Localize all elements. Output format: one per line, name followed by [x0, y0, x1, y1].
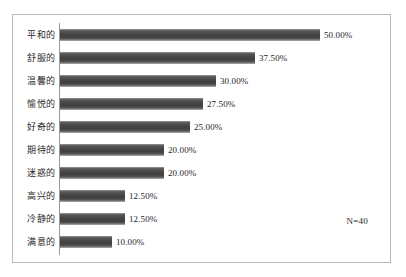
bar-value-label: 25.00% [194, 122, 222, 132]
bar-rect [60, 75, 216, 86]
bar-row: 好奇的 25.00% [13, 115, 390, 138]
bar-value-label: 30.00% [220, 76, 248, 86]
bar-value-label: 20.00% [168, 145, 196, 155]
bar-category-label: 满意的 [13, 237, 55, 246]
bar-rect [60, 121, 190, 132]
bar-row: 愉悦的 27.50% [13, 92, 390, 115]
bar-rect [60, 236, 112, 247]
bar-value-label: 20.00% [168, 168, 196, 178]
bar-category-label: 好奇的 [13, 122, 55, 131]
bar-value-label: 12.50% [129, 214, 157, 224]
bar-category-label: 期待的 [13, 145, 55, 154]
bar-category-label: 舒服的 [13, 53, 55, 62]
bar-category-label: 高兴的 [13, 191, 55, 200]
bar-rect [60, 29, 320, 40]
bar-row: 满意的 10.00% [13, 230, 390, 253]
bar-category-label: 愉悦的 [13, 99, 55, 108]
plot-area: 平和的 50.00% 舒服的 37.50% 温馨的 30.00% 愉悦的 [13, 15, 390, 262]
bar-category-label: 温馨的 [13, 76, 55, 85]
bar-rect [60, 167, 164, 178]
bar-value-label: 50.00% [324, 30, 352, 40]
bar-value-label: 12.50% [129, 191, 157, 201]
bar-rect [60, 144, 164, 155]
bar-row: 高兴的 12.50% [13, 184, 390, 207]
bar-row: 冷静的 12.50% [13, 207, 390, 230]
bar-value-label: 27.50% [207, 99, 235, 109]
bar-rect [60, 98, 203, 109]
bar-rect [60, 190, 125, 201]
bar-value-label: 37.50% [259, 53, 287, 63]
bar-value-label: 10.00% [116, 237, 144, 247]
bar-row: 舒服的 37.50% [13, 46, 390, 69]
bar-category-label: 迷惑的 [13, 168, 55, 177]
bar-row: 期待的 20.00% [13, 138, 390, 161]
bar-rect [60, 213, 125, 224]
bar-category-label: 冷静的 [13, 214, 55, 223]
bar-row: 温馨的 30.00% [13, 69, 390, 92]
bar-rect [60, 52, 255, 63]
bar-chart-figure: 平和的 50.00% 舒服的 37.50% 温馨的 30.00% 愉悦的 [12, 14, 391, 263]
bar-row: 平和的 50.00% [13, 23, 390, 46]
sample-size-annotation: N=40 [347, 216, 368, 226]
bar-row: 迷惑的 20.00% [13, 161, 390, 184]
bar-category-label: 平和的 [13, 30, 55, 39]
